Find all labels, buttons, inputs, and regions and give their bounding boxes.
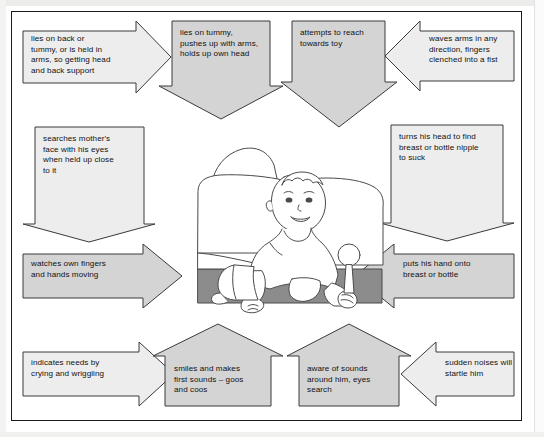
node-label: lies on back or tummy, or is held in arm… xyxy=(31,34,135,76)
node-smiles-and-makes: smiles and makes first sounds – goos and… xyxy=(152,323,284,407)
node-aware-of-sounds: aware of sounds around him, eyes search xyxy=(286,323,412,407)
baby-brow-right xyxy=(304,192,314,194)
baby-head xyxy=(272,175,326,233)
page-edge-left xyxy=(0,0,6,437)
node-label: indicates needs by crying and wriggling xyxy=(31,358,139,379)
page-edge-top xyxy=(0,0,544,6)
scanned-page: lies on back or tummy, or is held in arm… xyxy=(0,0,544,437)
baby-illustration xyxy=(196,143,407,322)
node-label: searches mother's face with his eyes whe… xyxy=(43,134,145,176)
rattle-head xyxy=(338,244,360,266)
node-label: waves arms in any direction, fingers cle… xyxy=(429,34,515,66)
node-searches-mothers-face: searches mother's face with his eyes whe… xyxy=(22,126,156,243)
baby-brow-left xyxy=(284,192,293,194)
rattle-handle xyxy=(344,265,354,293)
hand-left-fingers-2 xyxy=(248,309,258,311)
node-label: lies on tummy, pushes up with arms, hold… xyxy=(180,28,280,60)
node-label: attempts to reach towards toy xyxy=(300,28,396,49)
node-label: turns his head to find breast or bottle … xyxy=(399,132,507,164)
node-waves-arms: waves arms in any direction, fingers cle… xyxy=(384,20,515,92)
node-lies-on-back: lies on back or tummy, or is held in arm… xyxy=(22,20,172,94)
hand-left-fingers xyxy=(248,305,258,307)
baby-eye-right xyxy=(306,197,313,202)
node-label: watches own fingers and hands moving xyxy=(31,259,143,280)
node-attempts-to-reach: attempts to reach towards toy xyxy=(280,20,398,128)
diagram-frame: lies on back or tummy, or is held in arm… xyxy=(11,11,522,421)
node-watches-own-fingers: watches own fingers and hands moving xyxy=(22,243,183,309)
baby-leg xyxy=(218,265,258,300)
node-label: smiles and makes first sounds – goos and… xyxy=(174,364,274,396)
baby-eye-left xyxy=(286,197,293,202)
node-label: sudden noises will startle him xyxy=(445,358,523,379)
baby-line-drawing xyxy=(196,143,407,322)
page-edge-bottom xyxy=(0,432,544,437)
page-edge-right xyxy=(534,0,544,437)
node-sudden-noises: sudden noises will startle him xyxy=(400,341,515,407)
node-label: puts his hand onto breast or bottle xyxy=(403,259,511,280)
node-label: aware of sounds around him, eyes search xyxy=(307,364,399,396)
node-lies-on-tummy: lies on tummy, pushes up with arms, hold… xyxy=(158,20,284,120)
